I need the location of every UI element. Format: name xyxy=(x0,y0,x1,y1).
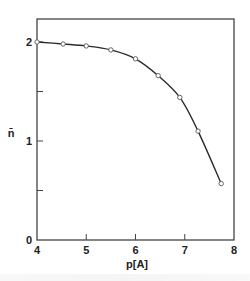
data-curve xyxy=(37,42,221,184)
x-tick-label: 5 xyxy=(83,244,89,256)
x-tick-label: 4 xyxy=(34,244,41,256)
data-point-marker xyxy=(61,42,65,46)
figure-caption-cutoff xyxy=(0,274,250,281)
x-tick-label: 7 xyxy=(182,244,188,256)
data-point-marker xyxy=(109,48,113,52)
data-markers xyxy=(35,40,224,186)
data-point-marker xyxy=(196,129,200,133)
x-tick-label: 6 xyxy=(132,244,138,256)
x-axis-ticks: 45678 xyxy=(34,234,237,256)
titration-curve-chart: 45678 012 p[A] n̄ xyxy=(0,0,250,281)
plot-frame xyxy=(37,19,234,240)
y-axis-ticks: 012 xyxy=(26,36,43,246)
data-point-marker xyxy=(35,40,39,44)
data-point-marker xyxy=(84,44,88,48)
y-tick-label: 1 xyxy=(26,135,32,147)
y-tick-label: 0 xyxy=(26,234,32,246)
data-point-marker xyxy=(178,95,182,99)
data-point-marker xyxy=(219,181,223,185)
data-point-marker xyxy=(156,73,160,77)
y-axis-label: n̄ xyxy=(8,127,15,139)
x-tick-label: 8 xyxy=(231,244,237,256)
data-point-marker xyxy=(133,57,137,61)
x-axis-label: p[A] xyxy=(126,258,148,270)
y-tick-label: 2 xyxy=(26,36,32,48)
